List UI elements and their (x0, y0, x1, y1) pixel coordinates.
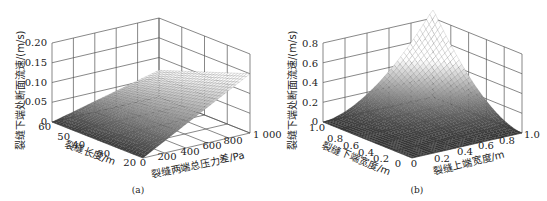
y-tick: 1.0 (309, 122, 325, 133)
chart-a: 0 0.05 0.10 0.15 0.20 20 30 40 50 60 0 2… (14, 18, 282, 195)
x-tick: 600 (202, 140, 221, 151)
x-tick: 0.4 (457, 146, 473, 157)
chart-a-caption: (a) (132, 185, 144, 195)
chart-b-z-label: 裂缝下端处断面流速/(m/s) (286, 30, 298, 150)
x-tick: 0 (411, 158, 417, 169)
x-tick: 1 000 (253, 129, 282, 140)
x-tick: 0 (140, 157, 146, 168)
y-tick: 0 (395, 158, 401, 169)
z-tick: 0.20 (25, 37, 47, 48)
chart-a-z-ticks: 0 0.05 0.10 0.15 0.20 (25, 37, 47, 127)
z-tick: 0.10 (25, 77, 47, 88)
z-tick: 0.4 (302, 77, 318, 88)
z-tick: 0.2 (302, 97, 318, 108)
y-tick: 20 (123, 157, 136, 168)
x-tick: 800 (223, 135, 242, 146)
x-tick: 400 (180, 146, 199, 157)
z-tick: 0.6 (302, 58, 318, 69)
chart-b-caption: (b) (411, 185, 424, 195)
chart-b-surface (323, 10, 522, 158)
chart-b: 0 0.2 0.4 0.6 0.8 0 0.2 0.4 0.6 0.8 1.0 … (286, 10, 540, 195)
y-tick: 60 (38, 121, 51, 132)
figure-canvas: 0 0.05 0.10 0.15 0.20 20 30 40 50 60 0 2… (0, 0, 547, 201)
chart-a-z-label: 裂缝下端处断面流速/(m/s) (14, 30, 26, 150)
x-tick: 0.6 (478, 140, 494, 151)
z-tick: 0.15 (25, 57, 47, 68)
z-tick: 0.8 (302, 38, 318, 49)
x-tick: 200 (157, 151, 176, 162)
chart-b-z-ticks: 0 0.2 0.4 0.6 0.8 (302, 38, 318, 127)
z-tick: 0.05 (25, 96, 47, 107)
x-tick: 0.8 (499, 135, 515, 146)
x-tick: 1.0 (524, 129, 540, 140)
